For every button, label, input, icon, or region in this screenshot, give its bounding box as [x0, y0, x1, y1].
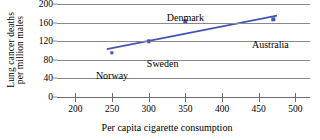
x-tick-mark — [185, 93, 186, 102]
gridline — [57, 4, 310, 5]
y-tick-label: 40 — [31, 73, 53, 83]
y-tick-label: 200 — [31, 0, 53, 9]
x-tick-label: 250 — [105, 104, 119, 114]
x-tick-mark — [295, 93, 296, 102]
y-tick-mark — [53, 41, 57, 42]
x-tick-mark — [75, 93, 76, 102]
x-tick-label: 200 — [68, 104, 82, 114]
data-point — [110, 51, 113, 54]
y-tick-mark — [53, 4, 57, 5]
x-tick-label: 300 — [142, 104, 156, 114]
point-label-australia: Australia — [252, 39, 289, 50]
plot-area: NorwaySwedenDenmarkAustralia — [57, 4, 310, 97]
x-tick-label: 450 — [252, 104, 266, 114]
y-tick-label: 0 — [31, 92, 53, 102]
x-axis-label: Per capita cigarette consumption — [57, 122, 277, 133]
y-axis-ticks: 04080120160200 — [28, 4, 53, 97]
point-label-denmark: Denmark — [167, 12, 204, 23]
y-tick-mark — [53, 97, 57, 98]
y-tick-mark — [53, 22, 57, 23]
gridline — [57, 60, 310, 61]
x-tick-mark — [259, 93, 260, 102]
x-tick-label: 400 — [215, 104, 229, 114]
y-tick-label: 160 — [31, 18, 53, 28]
x-axis-ticks: 200250300350400450500 — [57, 97, 310, 119]
point-label-sweden: Sweden — [147, 58, 179, 69]
x-tick-mark — [149, 93, 150, 102]
data-point — [272, 18, 275, 21]
y-tick-mark — [53, 78, 57, 79]
y-tick-label: 120 — [31, 36, 53, 46]
chart-screenshot: Lung cancer deaths per million males 040… — [0, 0, 320, 140]
x-tick-mark — [112, 93, 113, 102]
y-tick-label: 80 — [31, 55, 53, 65]
point-label-norway: Norway — [96, 70, 128, 81]
y-axis-label-line2: per million males — [16, 16, 26, 84]
x-tick-label: 500 — [288, 104, 302, 114]
data-point — [147, 39, 150, 42]
x-tick-mark — [222, 93, 223, 102]
x-tick-label: 350 — [178, 104, 192, 114]
y-tick-mark — [53, 59, 57, 60]
